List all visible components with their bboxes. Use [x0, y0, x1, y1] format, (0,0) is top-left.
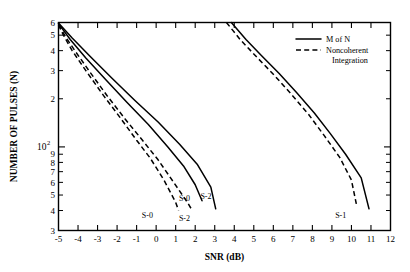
axis-titles: SNR (dB)NUMBER OF PULSES (N)	[9, 71, 244, 263]
y-tick-label: 5	[51, 190, 56, 200]
x-tick-label: -3	[94, 234, 102, 244]
y-decade-label: 10	[37, 142, 47, 152]
y-tick-label: 2	[51, 94, 56, 104]
y-decade-exponent: 2	[47, 139, 50, 146]
x-tick-label: 7	[291, 234, 296, 244]
x-tick-label: 0	[154, 234, 159, 244]
x-tick-label: 6	[271, 234, 276, 244]
y-tick-label: 7	[51, 167, 56, 177]
x-tick-label: 3	[212, 234, 217, 244]
x-tick-label: 1	[173, 234, 178, 244]
curve-label: S-0	[142, 211, 153, 220]
y-tick-label: 3	[51, 226, 56, 236]
x-tick-label: 4	[232, 234, 237, 244]
y-tick-label: 4	[51, 206, 56, 216]
y-tick-label: 4	[51, 46, 56, 56]
chart-plot-area: -5-4-3-2-10123456789101112 3456789102234…	[0, 0, 410, 272]
x-tick-label: 11	[367, 234, 376, 244]
x-tick-label: 10	[347, 234, 357, 244]
x-tick-label: 5	[252, 234, 257, 244]
chart-legend: M of NNoncoherentIntegration	[296, 35, 369, 65]
x-tick-label: 2	[193, 234, 198, 244]
data-curves	[59, 23, 370, 211]
x-tick-label: -2	[113, 234, 121, 244]
x-axis-title: SNR (dB)	[205, 252, 244, 263]
y-axis-title: NUMBER OF PULSES (N)	[9, 71, 20, 182]
x-tick-label: -1	[133, 234, 141, 244]
legend-label-integration: Integration	[332, 56, 368, 65]
y-tick-label: 6	[51, 178, 56, 188]
legend-label-m-of-n: M of N	[326, 35, 350, 44]
curve-label: S-2	[200, 192, 211, 201]
y-tick-label: 9	[51, 149, 56, 159]
curve-label: S-0	[179, 194, 190, 203]
x-tick-label: -4	[74, 234, 82, 244]
y-tick-label: 5	[51, 30, 56, 40]
curve-s-2-noncoherent-integration	[59, 25, 193, 211]
x-tick-label: 8	[310, 234, 315, 244]
x-tick-label: 9	[330, 234, 335, 244]
curve-label: S-1	[335, 211, 346, 220]
legend-label-noncoherent: Noncoherent	[326, 46, 369, 55]
y-tick-label: 3	[51, 66, 56, 76]
x-tick-labels: -5-4-3-2-10123456789101112	[55, 234, 395, 244]
curve-s-0-m-of-n	[59, 24, 203, 201]
y-tick-labels: 345678910223456	[37, 18, 56, 236]
chart-figure: -5-4-3-2-10123456789101112 3456789102234…	[0, 0, 410, 272]
y-tick-label: 6	[51, 18, 56, 28]
x-tick-label: -5	[55, 234, 63, 244]
x-tick-label: 12	[386, 234, 395, 244]
curve-label: S-2	[179, 214, 190, 223]
